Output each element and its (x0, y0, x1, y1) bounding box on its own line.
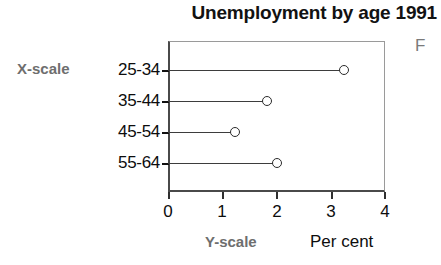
stem-2 (168, 132, 235, 133)
category-label-0: 25-34 (68, 60, 160, 80)
x-tick-4 (384, 192, 386, 199)
category-label-1: 35-44 (68, 91, 160, 111)
x-tick-label-3: 3 (318, 202, 344, 222)
stem-1 (168, 101, 267, 102)
data-point-3[interactable] (272, 158, 282, 168)
x-tick-label-0: 0 (155, 202, 181, 222)
stem-0 (168, 70, 344, 71)
x-tick-label-1: 1 (209, 202, 235, 222)
x-scale-annotation: X-scale (17, 60, 70, 77)
data-rows: 25-34 35-44 45-54 55-64 (0, 0, 441, 265)
x-tick-0 (168, 192, 170, 199)
x-tick-label-4: 4 (372, 202, 398, 222)
data-point-2[interactable] (230, 127, 240, 137)
category-label-2: 45-54 (68, 122, 160, 142)
x-tick-1 (222, 192, 224, 199)
x-axis-label: Per cent (310, 232, 373, 252)
chart-figure: Unemployment by age 1991 F 25-34 35-44 4… (0, 0, 441, 265)
data-point-1[interactable] (262, 96, 272, 106)
y-scale-annotation: Y-scale (205, 233, 257, 250)
x-tick-3 (331, 192, 333, 199)
data-point-0[interactable] (339, 65, 349, 75)
x-tick-label-2: 2 (264, 202, 290, 222)
x-tick-2 (276, 192, 278, 199)
stem-3 (168, 163, 277, 164)
category-label-3: 55-64 (68, 153, 160, 173)
